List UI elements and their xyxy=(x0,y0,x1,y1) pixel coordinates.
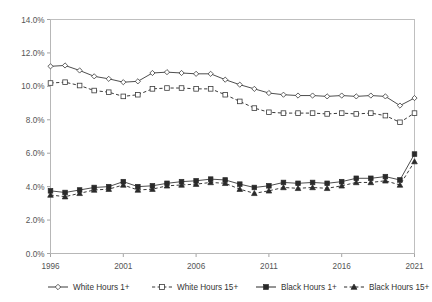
data-point-marker-square-filled xyxy=(252,185,257,190)
data-point-marker-square xyxy=(252,106,257,111)
data-point-marker-diamond xyxy=(121,80,126,85)
legend-item-white-hours-15[interactable]: White Hours 15+ xyxy=(152,283,238,292)
data-point-marker-triangle-filled xyxy=(324,186,330,191)
data-point-marker-diamond xyxy=(48,64,53,69)
y-axis-tick-label: 12.0% xyxy=(21,49,44,58)
x-axis-tick-label: 1996 xyxy=(41,262,60,271)
data-point-marker-square xyxy=(369,111,374,116)
series-path xyxy=(51,162,415,197)
data-point-marker-square xyxy=(165,86,170,91)
data-point-marker-square xyxy=(63,80,68,85)
data-point-marker-triangle-filled xyxy=(412,159,418,164)
data-point-marker-diamond xyxy=(383,94,388,99)
y-axis-tick-label: 14.0% xyxy=(21,16,44,25)
data-point-marker-triangle-filled xyxy=(252,191,258,196)
series-path xyxy=(51,82,415,122)
data-point-marker-square xyxy=(179,86,184,91)
data-point-marker-diamond xyxy=(106,76,111,81)
data-point-marker-square xyxy=(194,87,199,92)
data-point-marker-diamond xyxy=(223,77,228,82)
x-axis-tick-label: 2021 xyxy=(405,262,424,271)
data-point-marker-diamond xyxy=(208,71,213,76)
legend-item-white-hours-1[interactable]: White Hours 1+ xyxy=(48,283,130,292)
data-point-marker-square xyxy=(92,88,97,93)
legend-item-black-hours-15[interactable]: Black Hours 15+ xyxy=(344,283,430,292)
data-point-marker-square xyxy=(310,111,315,116)
data-point-marker-square xyxy=(160,285,165,290)
data-point-marker-square xyxy=(237,99,242,104)
x-axis-tick-group: 199620012006201120162021 xyxy=(41,20,424,271)
y-axis-tick-label: 0.0% xyxy=(26,250,45,259)
data-point-marker-diamond xyxy=(295,93,300,98)
data-point-marker-square xyxy=(121,94,126,99)
y-axis-tick-group: 0.0%2.0%4.0%6.0%8.0%10.0%12.0%14.0% xyxy=(21,16,50,259)
y-axis-tick-label: 4.0% xyxy=(26,183,45,192)
chart-canvas: 0.0%2.0%4.0%6.0%8.0%10.0%12.0%14.0% 1996… xyxy=(0,0,432,302)
legend-item-label: White Hours 15+ xyxy=(177,283,238,292)
y-axis-tick-label: 10.0% xyxy=(21,82,44,91)
data-point-marker-square-filled xyxy=(412,152,417,157)
data-point-marker-square xyxy=(267,110,272,115)
x-axis-tick-label: 2001 xyxy=(114,262,133,271)
data-point-marker-square xyxy=(383,113,388,118)
data-point-marker-triangle-filled xyxy=(281,185,287,190)
data-point-marker-square xyxy=(325,112,330,117)
legend-item-black-hours-1[interactable]: Black Hours 1+ xyxy=(256,283,337,292)
data-point-marker-diamond xyxy=(412,95,417,100)
legend-item-label: White Hours 1+ xyxy=(73,283,130,292)
line-chart: 0.0%2.0%4.0%6.0%8.0%10.0%12.0%14.0% 1996… xyxy=(0,0,432,302)
data-point-marker-diamond xyxy=(179,70,184,75)
data-point-marker-square xyxy=(208,87,213,92)
data-point-marker-square xyxy=(354,112,359,117)
data-point-marker-square xyxy=(412,111,417,116)
data-point-marker-square xyxy=(281,111,286,116)
chart-legend: White Hours 1+White Hours 15+Black Hours… xyxy=(48,283,430,292)
data-point-marker-diamond xyxy=(354,94,359,99)
data-point-marker-square xyxy=(106,90,111,95)
data-point-marker-square xyxy=(398,120,403,125)
data-point-marker-square-filled xyxy=(264,285,269,290)
data-point-marker-diamond xyxy=(77,68,82,73)
data-point-marker-square xyxy=(223,92,228,97)
data-point-marker-diamond xyxy=(310,93,315,98)
y-axis-tick-label: 2.0% xyxy=(26,216,45,225)
data-point-marker-diamond xyxy=(368,93,373,98)
legend-item-label: Black Hours 15+ xyxy=(369,283,430,292)
data-point-marker-diamond xyxy=(339,93,344,98)
data-point-marker-diamond xyxy=(55,284,60,289)
data-point-marker-diamond xyxy=(135,79,140,84)
x-axis-tick-label: 2006 xyxy=(187,262,206,271)
x-axis-tick-label: 2016 xyxy=(333,262,352,271)
data-point-marker-diamond xyxy=(62,63,67,68)
series-path xyxy=(51,65,415,105)
data-point-marker-diamond xyxy=(194,71,199,76)
data-point-marker-square xyxy=(136,92,141,97)
data-point-marker-square xyxy=(150,87,155,92)
series-white-hours-1 xyxy=(48,63,417,108)
plot-area-border xyxy=(51,20,415,254)
data-point-marker-square xyxy=(48,81,53,86)
data-point-marker-square xyxy=(77,83,82,88)
data-point-marker-diamond xyxy=(237,82,242,87)
data-point-marker-diamond xyxy=(92,74,97,79)
data-point-marker-diamond xyxy=(281,92,286,97)
series-black-hours-1 xyxy=(48,152,417,195)
y-axis-tick-label: 6.0% xyxy=(26,149,45,158)
plot-frame-group xyxy=(51,20,415,254)
legend-item-label: Black Hours 1+ xyxy=(281,283,337,292)
data-point-marker-diamond xyxy=(164,70,169,75)
y-axis-tick-label: 8.0% xyxy=(26,116,45,125)
data-point-marker-square xyxy=(296,111,301,116)
data-point-marker-diamond xyxy=(266,90,271,95)
series-black-hours-15 xyxy=(48,159,418,199)
x-axis-tick-label: 2011 xyxy=(260,262,278,271)
data-point-marker-diamond xyxy=(150,70,155,75)
data-point-marker-diamond xyxy=(252,86,257,91)
data-point-marker-diamond xyxy=(325,94,330,99)
series-group xyxy=(48,63,418,199)
data-point-marker-square xyxy=(339,111,344,116)
data-point-marker-diamond xyxy=(397,103,402,108)
series-white-hours-15 xyxy=(48,80,417,125)
